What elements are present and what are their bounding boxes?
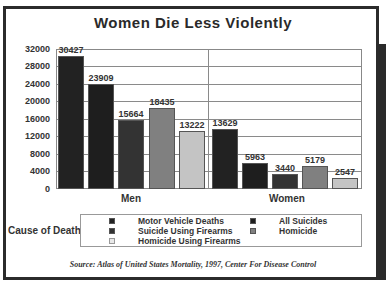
legend-swatch-suicide-firearms: [109, 228, 115, 234]
legend-label: Motor Vehicle Deaths: [138, 216, 224, 226]
legend-label: Homicide: [279, 226, 317, 236]
source-citation: Source: Atlas of United States Mortality…: [0, 260, 386, 269]
value-label: 5963: [235, 152, 275, 162]
value-label: 15664: [111, 109, 151, 119]
category-label-women: Women: [269, 193, 305, 204]
legend-label: All Suicides: [279, 216, 327, 226]
value-label: 5179: [295, 155, 335, 165]
value-label: 13629: [205, 118, 245, 128]
legend-label: Homicide Using Firearms: [138, 236, 241, 246]
y-tick: 20000: [8, 96, 50, 106]
legend-swatch-motor-vehicle: [109, 218, 115, 224]
legend-title: Cause of Death: [8, 225, 81, 236]
value-label: 30427: [51, 45, 91, 55]
bar-men-homicide-firearms: [179, 131, 205, 189]
bar-women-suicide-firearms: [272, 174, 298, 189]
y-tick: 0: [8, 184, 50, 194]
legend-swatch-homicide: [250, 228, 256, 234]
chart-title: Women Die Less Violently: [0, 14, 386, 31]
legend-label: Suicide Using Firearms: [138, 226, 232, 236]
bar-men-all-suicides: [88, 84, 114, 189]
value-label: 18435: [142, 97, 182, 107]
category-label-men: Men: [121, 193, 141, 204]
frame-shadow: [379, 44, 386, 280]
y-tick: 4000: [8, 166, 50, 176]
bar-men-suicide-firearms: [118, 120, 144, 189]
y-tick: 28000: [8, 61, 50, 71]
legend-swatch-all-suicides: [250, 218, 256, 224]
y-tick: 16000: [8, 114, 50, 124]
legend-swatch-homicide-firearms: [109, 238, 115, 244]
bar-women-homicide-firearms: [332, 178, 358, 189]
y-tick: 12000: [8, 131, 50, 141]
y-tick: 8000: [8, 149, 50, 159]
value-label: 23909: [81, 73, 121, 83]
y-tick: 24000: [8, 79, 50, 89]
value-label: 2547: [325, 167, 365, 177]
y-tick: 32000: [8, 44, 50, 54]
